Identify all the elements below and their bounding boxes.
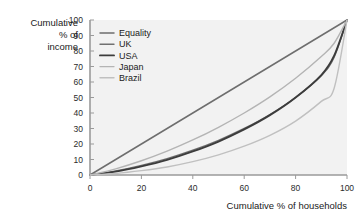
x-tick-label: 40 [188,183,198,193]
y-tick-label: 30 [74,124,84,134]
x-tick-label: 20 [137,183,147,193]
chart-page: 020406080100 0102030405060708090100 Equa… [0,0,364,217]
legend-label-uk: UK [119,39,132,49]
y-tick-label: 10 [74,155,84,165]
legend-label-usa: USA [119,51,138,61]
y-tick-label: 60 [74,77,84,87]
x-tick-label: 100 [340,183,354,193]
legend-label-japan: Japan [119,62,144,72]
y-tick-label: 0 [78,170,83,180]
x-axis-title: Cumulative % of households [227,200,348,211]
x-tick-label: 80 [291,183,301,193]
x-tick-label: 60 [239,183,249,193]
y-tick-label: 70 [74,62,84,72]
y-axis-title-line: Cumulative [30,17,78,28]
legend-label-equality: Equality [119,28,152,38]
y-tick-label: 40 [74,108,84,118]
y-tick-label: 50 [74,93,84,103]
legend-label-brazil: Brazil [119,73,142,83]
y-tick-label: 20 [74,139,84,149]
x-tick-label: 0 [88,183,93,193]
y-axis-title-line: % of [59,29,78,40]
lorenz-curve-chart: 020406080100 0102030405060708090100 Equa… [0,0,364,217]
y-axis-title-line: income [47,41,78,52]
x-axis-tick-labels: 020406080100 [88,183,355,193]
